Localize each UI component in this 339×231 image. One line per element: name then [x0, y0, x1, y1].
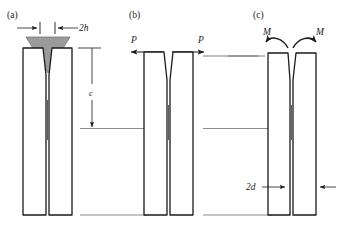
crack-length-label: c: [89, 88, 93, 98]
moment-right-label: M: [315, 27, 325, 37]
beam-c-left-arm: [268, 53, 290, 215]
force-right-label: P: [197, 35, 204, 45]
beam-thickness-label: 2d: [246, 182, 256, 192]
panel-b-label: (b): [129, 10, 140, 21]
panel-a-label: (a): [7, 10, 18, 21]
beam-c-right-arm: [293, 53, 316, 215]
panel-c-label: (c): [253, 10, 264, 21]
beam-a-left-arm: [23, 48, 46, 215]
beam-b-right-arm: [170, 52, 193, 215]
figure-container: (a) 2h c: [0, 0, 339, 231]
mechanics-figure: (a) 2h c: [0, 0, 339, 231]
moment-left-label: M: [262, 27, 272, 37]
beam-a-right-arm: [49, 48, 72, 215]
force-left-label: P: [130, 35, 137, 45]
beam-b-left-arm: [144, 52, 167, 215]
wedge-width-label: 2h: [79, 23, 89, 33]
